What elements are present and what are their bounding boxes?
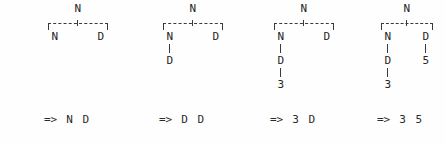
branch-bracket-icon xyxy=(159,20,227,30)
bracket-leg-right xyxy=(432,23,433,30)
spine-node: N xyxy=(270,30,292,43)
bracket-leg-right xyxy=(107,23,108,30)
spine-link-icon xyxy=(377,67,399,78)
spine-node: D xyxy=(415,30,437,43)
bracket-rail xyxy=(381,23,433,24)
bracket-leg-left xyxy=(274,23,275,30)
derivation-column-2: N N D D =>DD xyxy=(159,0,227,144)
result-line: =>DD xyxy=(159,113,205,127)
result-line: =>ND xyxy=(44,113,90,127)
spine-node: D xyxy=(377,54,399,67)
bracket-stem-icon xyxy=(192,20,193,26)
root-node: N xyxy=(159,3,227,15)
spine-link-icon xyxy=(415,43,437,54)
result-token-a: 3 xyxy=(292,113,299,126)
bracket-stem-icon xyxy=(303,20,304,26)
spine-node: 3 xyxy=(270,78,292,91)
right-spine: D 5 xyxy=(415,30,437,67)
bracket-leg-left xyxy=(381,23,382,30)
right-spine: D xyxy=(316,30,338,43)
bracket-leg-left xyxy=(48,23,49,30)
derivation-column-3: N N D 3 D =>3D xyxy=(270,0,338,144)
bracket-rail xyxy=(163,23,223,24)
root-node: N xyxy=(270,3,338,15)
bracket-leg-left xyxy=(163,23,164,30)
result-token-a: D xyxy=(181,113,188,126)
result-token-a: 3 xyxy=(399,113,406,126)
spine-node: D xyxy=(316,30,338,43)
spine-node: 3 xyxy=(377,78,399,91)
arrow-glyph: => xyxy=(44,113,57,126)
spine-node: D xyxy=(205,30,227,43)
left-spine: N D 3 xyxy=(270,30,292,91)
arrow-glyph: => xyxy=(270,113,283,126)
result-line: =>3D xyxy=(270,113,316,127)
spine-node: D xyxy=(270,54,292,67)
result-line: =>35 xyxy=(377,113,423,127)
derivation-column-1: N N D =>ND xyxy=(44,0,112,144)
branch-bracket-icon xyxy=(44,20,112,30)
spine-node: D xyxy=(159,54,181,67)
left-spine: N D 3 xyxy=(377,30,399,91)
left-spine: N xyxy=(44,30,66,43)
result-token-b: 5 xyxy=(415,113,422,126)
root-node: N xyxy=(44,3,112,15)
arrow-glyph: => xyxy=(377,113,390,126)
bracket-stem-icon xyxy=(77,20,78,26)
spine-node: N xyxy=(377,30,399,43)
arrow-glyph: => xyxy=(159,113,172,126)
bracket-leg-right xyxy=(222,23,223,30)
derivation-column-4: N N D 3 D 5 =>35 xyxy=(377,0,437,144)
spine-node: N xyxy=(159,30,181,43)
result-token-a: N xyxy=(66,113,73,126)
spine-node: N xyxy=(44,30,66,43)
bracket-leg-right xyxy=(333,23,334,30)
bracket-rail xyxy=(274,23,334,24)
bracket-rail xyxy=(48,23,108,24)
spine-node: D xyxy=(90,30,112,43)
bracket-stem-icon xyxy=(406,20,407,26)
spine-link-icon xyxy=(270,43,292,54)
branch-bracket-icon xyxy=(270,20,338,30)
spine-link-icon xyxy=(377,43,399,54)
result-token-b: D xyxy=(197,113,204,126)
derivation-figure: N N D =>ND N N D D xyxy=(0,0,446,144)
spine-link-icon xyxy=(159,43,181,54)
right-spine: D xyxy=(205,30,227,43)
result-token-b: D xyxy=(308,113,315,126)
branch-bracket-icon xyxy=(377,20,437,30)
spine-link-icon xyxy=(270,67,292,78)
spine-node: 5 xyxy=(415,54,437,67)
result-token-b: D xyxy=(82,113,89,126)
right-spine: D xyxy=(90,30,112,43)
root-node: N xyxy=(377,3,437,15)
left-spine: N D xyxy=(159,30,181,67)
